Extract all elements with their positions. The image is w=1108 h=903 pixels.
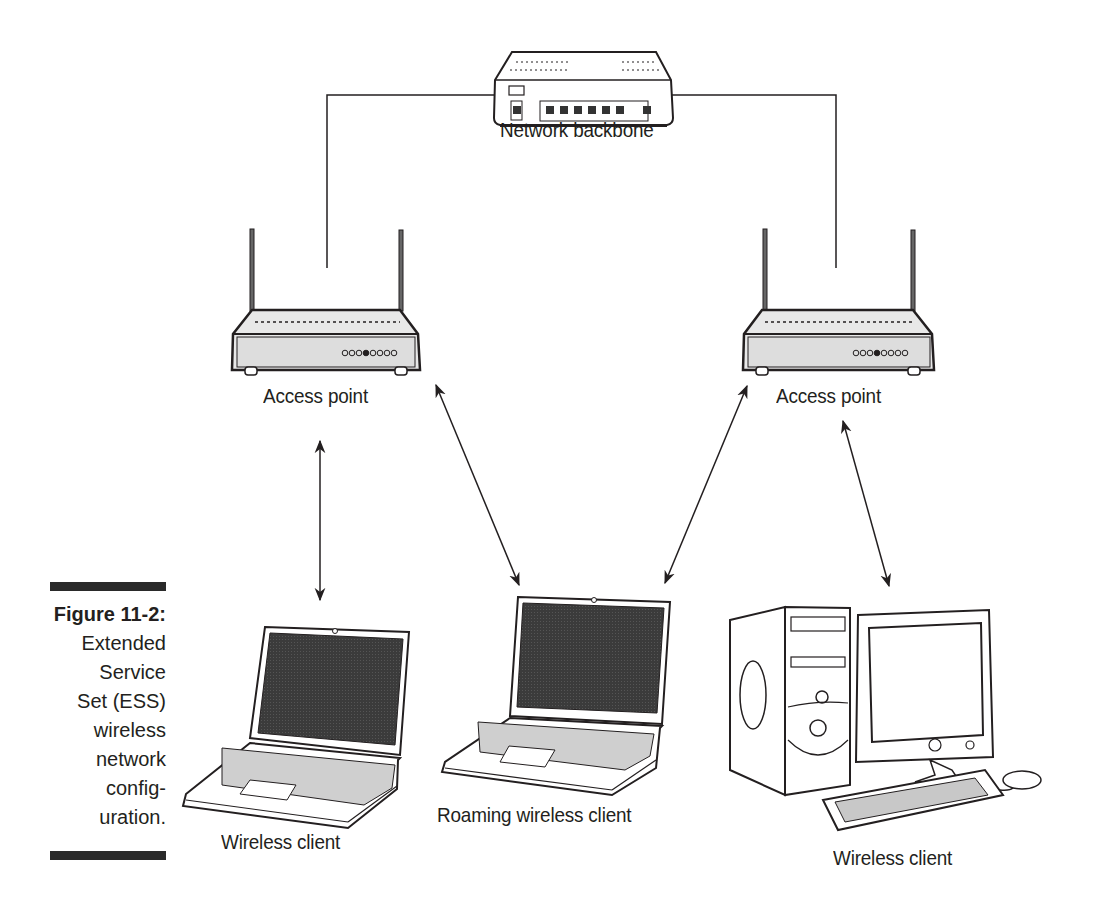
desktop-computer-icon	[730, 607, 1041, 830]
figure-number: Figure 11-2:	[40, 600, 166, 629]
link-ap-right-roaming	[665, 386, 747, 583]
caption-line: config-	[40, 774, 166, 803]
caption-line: Extended	[40, 629, 166, 658]
caption-line: Set (ESS)	[40, 687, 166, 716]
figure-caption: Figure 11-2: Extended Service Set (ESS) …	[40, 600, 166, 832]
caption-line: wireless	[40, 716, 166, 745]
access-point-left-icon	[232, 229, 420, 375]
link-ap-left-roaming	[436, 385, 519, 585]
caption-line: uration.	[40, 803, 166, 832]
label-roaming-wireless-client: Roaming wireless client	[437, 803, 631, 827]
caption-bottom-rule	[50, 851, 166, 860]
laptop-roaming-icon	[442, 597, 670, 795]
label-network-backbone: Network backbone	[500, 118, 654, 142]
caption-line: Service	[40, 658, 166, 687]
caption-line: network	[40, 745, 166, 774]
access-point-right-icon	[743, 229, 934, 375]
label-access-point-right: Access point	[776, 384, 881, 408]
network-backbone-switch-icon	[494, 52, 673, 126]
link-ap-right-client-right	[843, 421, 889, 586]
label-access-point-left: Access point	[263, 384, 368, 408]
laptop-left-icon	[183, 627, 409, 828]
label-wireless-client-right: Wireless client	[833, 846, 952, 870]
wireless-links	[320, 385, 889, 600]
caption-top-rule	[50, 582, 166, 591]
label-wireless-client-left: Wireless client	[221, 830, 340, 854]
